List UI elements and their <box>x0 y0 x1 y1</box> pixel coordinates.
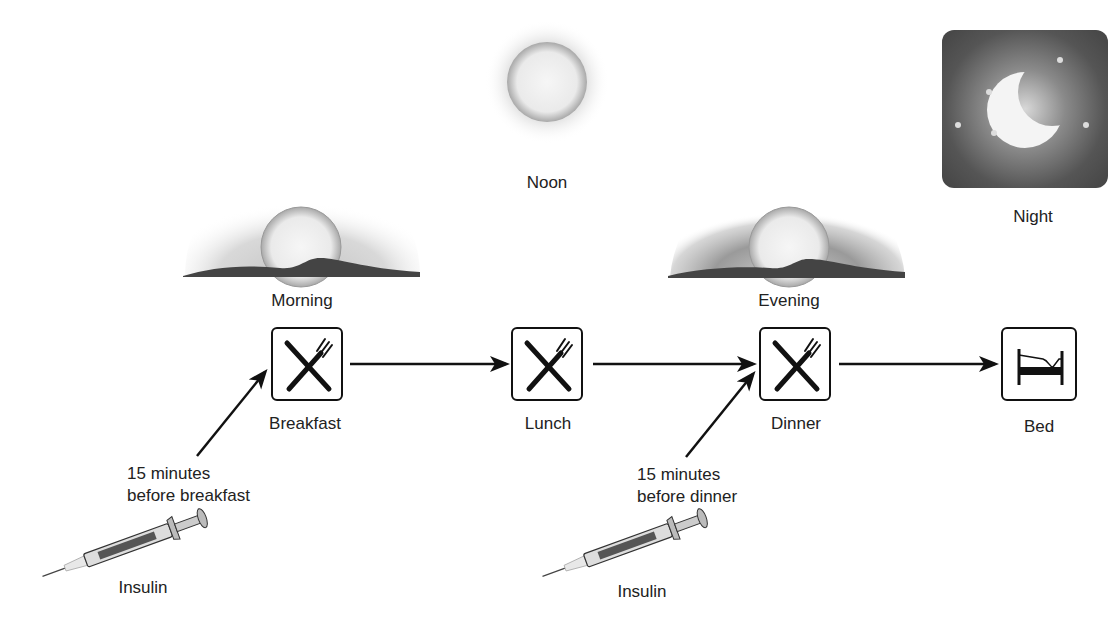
label-lunch: Lunch <box>525 414 571 434</box>
sunset-icon <box>668 166 905 287</box>
sunrise-icon <box>183 156 420 287</box>
note-line1: 15 minutes <box>127 463 250 485</box>
label-insulin-1: Insulin <box>118 578 167 598</box>
moon-icon <box>942 30 1108 188</box>
lunch-box <box>511 327 583 401</box>
label-bed: Bed <box>1024 417 1054 437</box>
fork-knife-icon <box>513 329 583 401</box>
syringe-icon <box>38 506 210 588</box>
note-line1: 15 minutes <box>637 464 737 486</box>
syringe-icon <box>538 506 710 588</box>
sun-icon <box>485 20 609 144</box>
breakfast-box <box>271 327 343 401</box>
label-insulin-2: Insulin <box>617 582 666 602</box>
note-line2: before breakfast <box>127 485 250 507</box>
label-morning: Morning <box>271 291 332 311</box>
label-night: Night <box>1013 207 1053 227</box>
label-dinner: Dinner <box>771 414 821 434</box>
arrow-injection-breakfast <box>197 372 265 456</box>
arrow-injection-dinner <box>686 374 753 457</box>
label-noon: Noon <box>527 173 568 193</box>
label-evening: Evening <box>758 291 819 311</box>
fork-knife-icon <box>761 329 831 401</box>
fork-knife-icon <box>273 329 343 401</box>
dinner-box <box>759 327 831 401</box>
label-breakfast: Breakfast <box>269 414 341 434</box>
injection-note-dinner: 15 minutes before dinner <box>637 464 737 508</box>
injection-note-breakfast: 15 minutes before breakfast <box>127 463 250 507</box>
bed-icon <box>1003 329 1077 401</box>
note-line2: before dinner <box>637 486 737 508</box>
bed-box <box>1001 327 1077 401</box>
